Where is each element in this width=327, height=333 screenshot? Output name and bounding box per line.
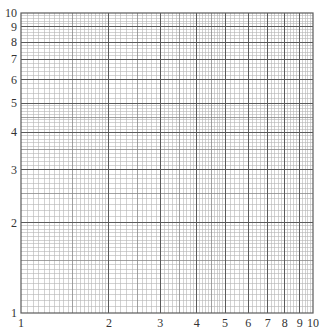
x-tick-label: 3 [157,316,163,330]
x-tick-label: 5 [222,316,228,330]
y-tick-label: 7 [11,52,17,66]
y-tick-label: 9 [11,20,17,34]
x-tick-label: 8 [282,316,288,330]
x-tick-label: 2 [106,316,112,330]
x-tick-label: 6 [245,316,251,330]
x-tick-label: 4 [194,316,200,330]
y-tick-label: 4 [11,125,17,139]
log-log-graph-paper: 12345678910 12345678910 [0,0,327,333]
x-tick-label: 7 [265,316,271,330]
y-tick-label: 1 [11,306,17,320]
x-tick-label: 1 [18,316,24,330]
x-tick-label: 10 [307,316,319,330]
y-tick-label: 8 [11,35,17,49]
y-tick-label: 3 [11,163,17,177]
x-tick-label: 9 [297,316,303,330]
y-tick-label: 10 [5,6,17,20]
y-tick-label: 5 [11,96,17,110]
y-tick-label: 6 [11,73,17,87]
y-tick-label: 2 [11,216,17,230]
